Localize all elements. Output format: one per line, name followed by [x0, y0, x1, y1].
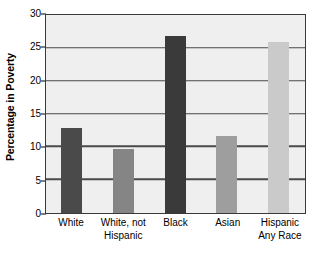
- y-axis-tick-labels: 30 25 20 15 10 5 0: [19, 0, 41, 214]
- bar-hispanic-any-race: [268, 42, 289, 213]
- bar-chart: Percentage in Poverty 30 25 20 15 10 5 0…: [0, 0, 325, 257]
- x-axis-label-4: HispanicAny Race: [246, 216, 314, 242]
- x-axis-label-4-line-1: Any Race: [246, 229, 314, 242]
- plot-area: [45, 14, 306, 214]
- bar-white-not-hispanic: [113, 149, 134, 213]
- y-axis-title: Percentage in Poverty: [0, 0, 20, 214]
- y-tick-label-5: 5: [19, 176, 41, 186]
- y-tick-label-15: 15: [19, 109, 41, 119]
- y-tick-label-20: 20: [19, 76, 41, 86]
- y-axis-title-text: Percentage in Poverty: [4, 53, 16, 161]
- y-tick-label-10: 10: [19, 142, 41, 152]
- bar-white: [61, 128, 82, 213]
- y-tick-label-30: 30: [19, 9, 41, 19]
- x-axis-label-1-line-1: Hispanic: [89, 229, 157, 242]
- y-tick-label-25: 25: [19, 42, 41, 52]
- x-axis-label-4-line-0: Hispanic: [246, 216, 314, 229]
- bar-black: [165, 36, 186, 213]
- x-axis-category-labels: WhiteWhite, notHispanicBlackAsianHispani…: [45, 216, 306, 257]
- bar-asian: [216, 136, 237, 213]
- plot-inner: [46, 15, 305, 213]
